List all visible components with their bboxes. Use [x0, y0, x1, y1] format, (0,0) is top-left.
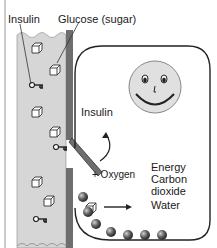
- vessel-wall-upper: [66, 30, 73, 140]
- product-dioxide: dioxide: [151, 185, 186, 197]
- plus-oxygen-label: + Oxygen: [92, 169, 135, 181]
- product-water: Water: [151, 199, 180, 211]
- curved-arrow-icon: [100, 132, 110, 161]
- vessel-wall-lower: [66, 168, 73, 248]
- product-energy: Energy: [151, 161, 186, 173]
- blood-vessel: [17, 30, 73, 248]
- glucose-label: Glucose (sugar): [58, 13, 136, 25]
- insulin-label: Insulin: [8, 13, 40, 25]
- insulin-glucose-diagram: Insulin Glucose (sugar) Insulin + Oxygen…: [0, 0, 217, 248]
- insulin-door-label: Insulin: [81, 106, 113, 118]
- diagram-canvas: [0, 0, 217, 248]
- right-arrow-icon: [104, 204, 132, 210]
- product-carbon: Carbon: [151, 173, 187, 185]
- smiley-face-icon: [129, 61, 181, 113]
